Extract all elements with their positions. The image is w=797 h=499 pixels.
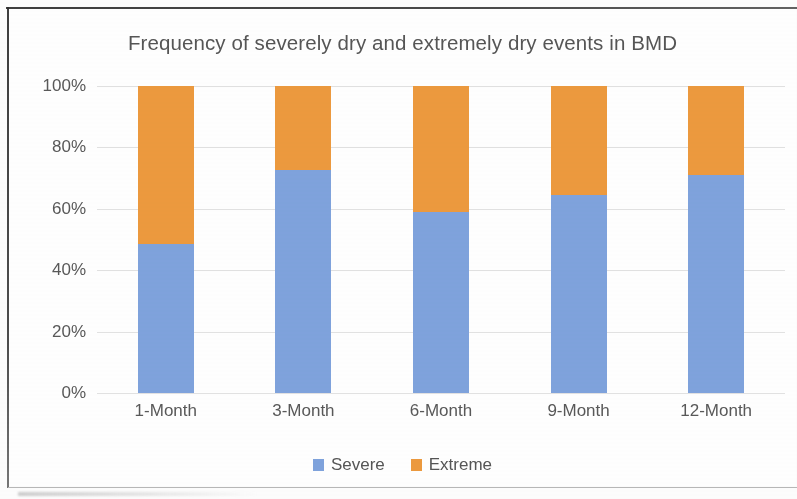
y-axis-tick-label: 20%	[0, 322, 86, 342]
bar-segment-extreme[interactable]	[275, 86, 331, 170]
y-axis-tick-label: 100%	[0, 76, 86, 96]
bar-group	[97, 86, 785, 393]
stacked-bar[interactable]	[138, 86, 194, 393]
y-axis-tick-label: 80%	[0, 137, 86, 157]
legend-swatch-icon	[313, 459, 324, 471]
x-axis-tick-label: 9-Month	[519, 401, 639, 429]
bar-segment-severe[interactable]	[138, 244, 194, 393]
chart-legend: SevereExtreme	[9, 455, 796, 475]
x-axis-tick-labels: 1-Month3-Month6-Month9-Month12-Month	[97, 401, 785, 429]
legend-label: Severe	[331, 455, 385, 475]
scan-smudge	[18, 492, 258, 496]
legend-swatch-icon	[411, 459, 422, 471]
stacked-bar[interactable]	[413, 86, 469, 393]
bar-segment-extreme[interactable]	[138, 86, 194, 244]
y-axis-tick-label: 0%	[0, 383, 86, 403]
stacked-bar[interactable]	[275, 86, 331, 393]
stacked-bar[interactable]	[688, 86, 744, 393]
page-frame-bottom-rule	[8, 487, 797, 488]
plot-area: 0%20%40%60%80%100% 1-Month3-Month6-Month…	[9, 9, 796, 486]
bar-segment-severe[interactable]	[275, 170, 331, 393]
bar-segment-severe[interactable]	[413, 212, 469, 393]
y-axis-tick-label: 60%	[0, 199, 86, 219]
bar-segment-severe[interactable]	[551, 195, 607, 393]
legend-label: Extreme	[429, 455, 492, 475]
gridline	[97, 393, 785, 394]
bar-segment-severe[interactable]	[688, 175, 744, 393]
bar-segment-extreme[interactable]	[688, 86, 744, 175]
x-axis-tick-label: 12-Month	[656, 401, 776, 429]
chart-screenshot: Frequency of severely dry and extremely …	[0, 0, 797, 499]
bar-segment-extreme[interactable]	[413, 86, 469, 212]
x-axis-tick-label: 1-Month	[106, 401, 226, 429]
chart-container: Frequency of severely dry and extremely …	[9, 9, 796, 486]
y-axis-tick-label: 40%	[0, 260, 86, 280]
x-axis-tick-label: 3-Month	[243, 401, 363, 429]
stacked-bar[interactable]	[551, 86, 607, 393]
bar-segment-extreme[interactable]	[551, 86, 607, 195]
legend-item[interactable]: Severe	[313, 455, 385, 475]
x-axis-tick-label: 6-Month	[381, 401, 501, 429]
legend-item[interactable]: Extreme	[411, 455, 492, 475]
